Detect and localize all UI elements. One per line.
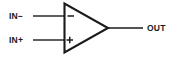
plus-terminal-icon bbox=[67, 37, 74, 43]
inverting-input-label: IN− bbox=[9, 12, 23, 21]
amplifier-triangle bbox=[65, 4, 109, 53]
output-label: OUT bbox=[147, 24, 166, 33]
noninverting-input-label: IN+ bbox=[9, 36, 23, 45]
opamp-schematic: IN− IN+ OUT bbox=[0, 0, 172, 57]
